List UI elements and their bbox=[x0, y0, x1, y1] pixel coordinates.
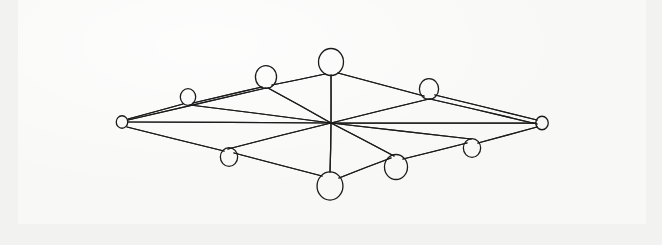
graph-node[interactable] bbox=[536, 116, 548, 130]
graph-edge-overlay bbox=[228, 123, 331, 149]
graph-edge-overlay bbox=[430, 99, 537, 124]
graph-edge-overlay bbox=[234, 153, 322, 176]
graph-edge-overlay bbox=[338, 73, 424, 96]
node-circle bbox=[319, 48, 344, 75]
graph-edge-overlay bbox=[403, 143, 467, 159]
nodes-group bbox=[116, 48, 548, 200]
node-circle bbox=[536, 116, 548, 130]
graph-edge-overlay bbox=[190, 105, 331, 123]
graph-node[interactable] bbox=[319, 48, 344, 75]
graph-edge-overlay bbox=[127, 127, 224, 151]
graph-edge-overlay bbox=[339, 158, 391, 178]
node-circle bbox=[463, 139, 480, 158]
graph-edge-overlay bbox=[193, 87, 262, 103]
network-graph bbox=[0, 0, 662, 245]
graph-edge-overlay bbox=[330, 123, 331, 172]
graph-edge-overlay bbox=[331, 99, 429, 123]
graph-edge-overlay bbox=[478, 127, 537, 143]
diagram-canvas bbox=[0, 0, 662, 245]
graph-edge-overlay bbox=[331, 123, 394, 156]
graph-node[interactable] bbox=[463, 139, 480, 158]
graph-node[interactable] bbox=[116, 116, 128, 128]
graph-edge-overlay bbox=[268, 88, 331, 123]
graph-edge-overlay bbox=[128, 88, 266, 120]
node-circle bbox=[116, 116, 128, 128]
graph-edge-overlay bbox=[435, 95, 537, 120]
graph-edge-overlay bbox=[331, 123, 471, 139]
graph-edge-overlay bbox=[272, 74, 325, 85]
node-circle bbox=[419, 79, 438, 100]
graph-edge-overlay bbox=[128, 122, 331, 123]
graph-edge-overlay bbox=[128, 104, 183, 119]
graph-node[interactable] bbox=[419, 79, 438, 100]
